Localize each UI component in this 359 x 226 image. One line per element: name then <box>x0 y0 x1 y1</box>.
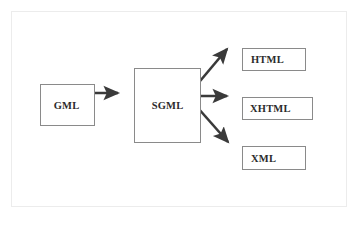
node-xml[interactable]: XML <box>242 146 306 170</box>
node-html-label: HTML <box>251 54 284 65</box>
node-gml[interactable]: GML <box>40 84 95 126</box>
node-sgml-label: SGML <box>152 100 184 111</box>
node-xhtml[interactable]: XHTML <box>242 97 313 120</box>
node-gml-label: GML <box>54 100 82 111</box>
node-xhtml-label: XHTML <box>250 103 291 114</box>
node-sgml[interactable]: SGML <box>134 68 201 143</box>
node-xml-label: XML <box>251 153 276 164</box>
figure-frame: GML SGML HTML XHTML XML <box>11 11 347 207</box>
figure-screenshot: GML SGML HTML XHTML XML <box>0 0 359 226</box>
node-html[interactable]: HTML <box>242 48 306 71</box>
